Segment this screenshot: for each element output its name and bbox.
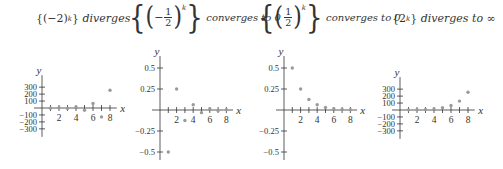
data-point [216,109,219,112]
data-point [324,106,327,109]
scatter-plot: yx2468300200100−100−200−300 [0,0,125,169]
x-tick-label: 6 [331,115,336,125]
x-tick-label: 6 [449,115,454,125]
y-tick-label: −300 [377,126,395,136]
data-point [167,150,170,153]
x-tick-label: 8 [466,115,471,125]
y-axis-label: y [394,66,400,78]
data-point [74,105,77,108]
data-point [91,102,94,105]
data-point [100,115,103,118]
data-point [225,108,228,111]
y-tick-label: −0.25 [135,126,155,136]
y-tick-label: 100 [24,96,37,106]
y-tick-label: −0.5 [140,147,155,157]
data-point [307,98,310,101]
x-tick-label: 2 [174,115,179,125]
y-tick-label: −0.5 [264,147,279,157]
panel-neg2-pow-k: {(−2)k} diverges yx2468300200100−100−200… [0,0,125,169]
y-tick-label: 0.5 [268,63,279,73]
x-tick-label: 8 [108,113,113,123]
y-axis-label: y [154,45,160,57]
y-tick-label: −300 [19,124,37,134]
data-point [200,111,203,114]
scatter-plot: yx2468300200100−100−200−300 [375,0,503,169]
x-axis-label: x [477,104,483,116]
data-point [83,109,86,112]
data-point [183,119,186,122]
data-point [332,107,335,110]
data-point [49,106,52,109]
data-point [424,108,427,111]
data-point [466,91,469,94]
x-tick-label: 8 [348,115,353,125]
y-tick-label: −0.25 [259,126,279,136]
scatter-plot: yx24680.50.25−0.25−0.5 [125,0,250,169]
x-tick-label: 6 [91,113,96,123]
data-point [449,104,452,107]
x-tick-label: 6 [207,115,212,125]
panel-2-pow-k: {2k} diverges to ∞ yx2468300200100−100−2… [375,0,503,169]
y-axis-label: y [278,45,284,57]
data-point [349,108,352,111]
y-tick-label: 0.25 [264,84,279,94]
y-axis-label: y [36,64,42,76]
data-point [291,66,294,69]
data-point [415,108,418,111]
data-point [175,87,178,90]
data-point [299,87,302,90]
data-point [57,106,60,109]
x-tick-label: 4 [191,115,196,125]
x-tick-label: 2 [415,115,420,125]
y-tick-label: 100 [382,98,395,108]
data-point [458,99,461,102]
panel-half-pow-k: {(12)k} converges to 0 yx24680.50.25−0.2… [250,0,375,169]
data-point [407,108,410,111]
x-tick-label: 2 [298,115,303,125]
x-tick-label: 4 [315,115,320,125]
panel-neg-half-pow-k: {(−12)k} converges to 0 yx24680.50.25−0.… [125,0,250,169]
data-point [432,107,435,110]
data-point [108,89,111,92]
data-point [208,107,211,110]
data-point [192,103,195,106]
scatter-plot: yx24680.50.25−0.25−0.5 [250,0,375,169]
data-point [316,103,319,106]
data-point [340,108,343,111]
x-tick-label: 4 [74,113,79,123]
y-tick-label: 0.5 [144,63,155,73]
y-tick-label: 0.25 [140,84,155,94]
x-tick-label: 4 [432,115,437,125]
data-point [66,107,69,110]
x-axis-label: x [235,104,241,116]
x-axis-label: x [359,104,365,116]
x-tick-label: 2 [57,113,62,123]
x-tick-label: 8 [224,115,229,125]
data-point [441,106,444,109]
